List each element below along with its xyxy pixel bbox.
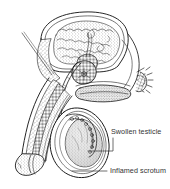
anatomy-figure: Swollen testicle Inflamed scrotum: [0, 0, 170, 189]
glans-penis-structure: [15, 154, 44, 175]
label-inflamed-scrotum: Inflamed scrotum: [110, 166, 166, 175]
anatomy-illustration: [0, 0, 170, 189]
urethra-structure: [76, 82, 131, 102]
label-swollen-testicle: Swollen testicle: [111, 127, 161, 136]
